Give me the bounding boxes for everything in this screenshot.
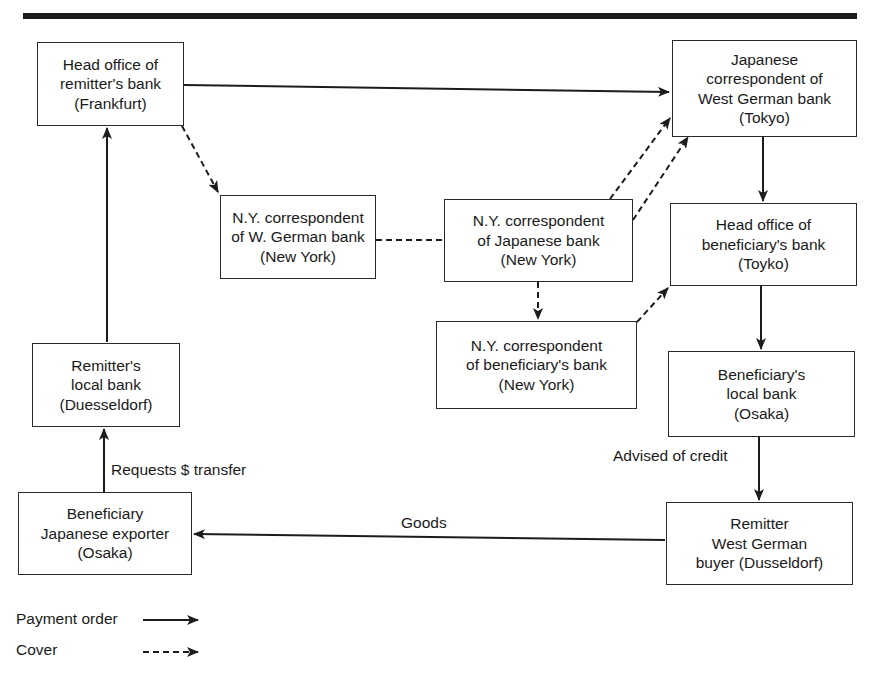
node-line: N.Y. correspondent	[232, 208, 364, 228]
arrow-frankfurt-to-tokyo	[184, 85, 669, 92]
node-line: (Osaka)	[77, 543, 132, 563]
node-line: local bank	[71, 375, 141, 395]
node-line: of Japanese bank	[477, 231, 599, 251]
node-line: of W. German bank	[231, 227, 365, 247]
node-line: (New York)	[499, 375, 575, 395]
legend-payment-order: Payment order	[16, 610, 118, 628]
node-line: Remitter's	[71, 356, 140, 376]
node-ny-correspondent-japanese: N.Y. correspondent of Japanese bank (New…	[444, 199, 633, 282]
node-head-office-beneficiary-bank: Head office of beneficiary's bank (Toyko…	[670, 203, 857, 286]
label-goods: Goods	[401, 514, 447, 532]
node-line: West German bank	[698, 89, 831, 109]
node-line: West German	[712, 534, 807, 554]
node-remitter-local-bank: Remitter's local bank (Duesseldorf)	[32, 343, 180, 427]
node-line: Japanese	[731, 50, 798, 70]
node-line: (Toyko)	[738, 254, 789, 274]
legend-cover: Cover	[16, 641, 57, 659]
cover-ny-beneficiary-to-head-beneficiary	[637, 288, 668, 322]
node-line: N.Y. correspondent	[473, 211, 605, 231]
arrow-buyer-to-exporter	[194, 534, 665, 540]
node-line: (New York)	[260, 247, 336, 267]
node-line: Beneficiary's	[718, 365, 805, 385]
node-line: of beneficiary's bank	[466, 355, 607, 375]
node-japanese-correspondent-tokyo: Japanese correspondent of West German ba…	[672, 40, 857, 137]
node-line: remitter's bank	[60, 74, 161, 94]
node-line: local bank	[727, 384, 797, 404]
node-line: buyer (Dusseldorf)	[696, 553, 824, 573]
node-line: (Tokyo)	[739, 108, 790, 128]
node-remitter-buyer: Remitter West German buyer (Dusseldorf)	[666, 502, 853, 585]
node-head-office-remitter-bank: Head office of remitter's bank (Frankfur…	[37, 42, 184, 126]
node-line: (Duesseldorf)	[59, 395, 152, 415]
node-beneficiary-local-bank: Beneficiary's local bank (Osaka)	[668, 351, 855, 437]
cover-ny-japanese-to-tokyo-a	[610, 118, 670, 199]
node-line: Japanese exporter	[41, 524, 169, 544]
node-beneficiary-exporter: Beneficiary Japanese exporter (Osaka)	[18, 492, 192, 575]
node-line: Beneficiary	[67, 504, 144, 524]
node-ny-correspondent-wgerman: N.Y. correspondent of W. German bank (Ne…	[220, 195, 376, 279]
label-requests-transfer: Requests $ transfer	[111, 461, 246, 479]
node-line: Head office of	[63, 55, 158, 75]
node-line: Head office of	[716, 215, 811, 235]
cover-frankfurt-to-ny-wgerman	[182, 126, 218, 192]
node-line: N.Y. correspondent	[471, 336, 603, 356]
node-line: (Frankfurt)	[74, 94, 146, 114]
label-advised-credit: Advised of credit	[613, 447, 728, 465]
node-line: correspondent of	[706, 69, 822, 89]
node-line: beneficiary's bank	[702, 235, 826, 255]
node-line: (Osaka)	[734, 404, 789, 424]
node-ny-correspondent-beneficiary: N.Y. correspondent of beneficiary's bank…	[436, 321, 637, 409]
node-line: Remitter	[730, 514, 789, 534]
node-line: (New York)	[501, 250, 577, 270]
